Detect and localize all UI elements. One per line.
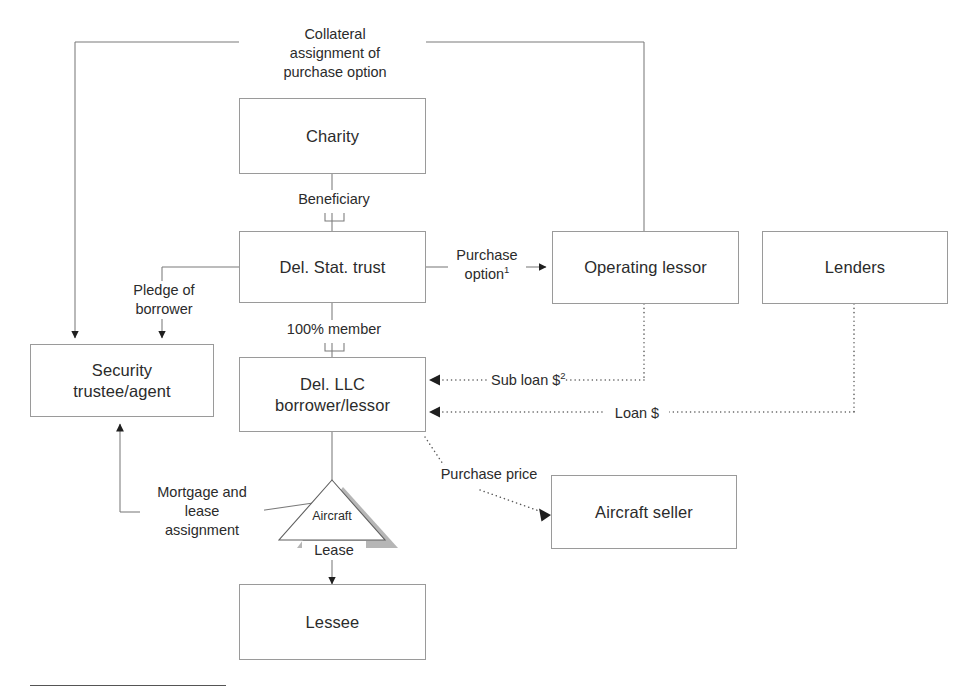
label-purchase-option-line2-text: option	[465, 266, 505, 282]
label-pledge-line2: borrower	[107, 300, 221, 319]
label-purchase-price-text: Purchase price	[441, 466, 538, 482]
label-collateral-line2: assignment of	[249, 44, 421, 63]
footnote-marker-1: 1	[504, 264, 509, 275]
label-collateral-line3: purchase option	[249, 63, 421, 82]
node-security-trustee-line2: trustee/agent	[73, 381, 171, 402]
aircraft-triangle-label-text: Aircraft	[312, 509, 352, 523]
node-aircraft-seller-label: Aircraft seller	[595, 502, 693, 523]
node-aircraft-seller[interactable]: Aircraft seller	[551, 475, 737, 549]
node-charity-label: Charity	[306, 126, 359, 147]
node-del-llc-line2: borrower/lessor	[275, 395, 390, 416]
node-operating-lessor-label: Operating lessor	[584, 257, 707, 278]
sub-loan-arrowhead	[429, 375, 440, 386]
node-operating-lessor[interactable]: Operating lessor	[552, 231, 739, 304]
label-beneficiary: Beneficiary	[277, 190, 391, 209]
loan-arrowhead	[429, 407, 440, 418]
label-purchase-option: Purchase option1	[448, 246, 526, 284]
aircraft-triangle-label: Aircraft	[302, 509, 362, 523]
node-security-trustee-agent[interactable]: Security trustee/agent	[30, 344, 214, 417]
label-sub-loan: Sub loan $2	[489, 371, 563, 390]
flowchart-diagram: Charity Del. Stat. trust Operating lesso…	[0, 0, 976, 699]
dotted-edge-arrowheads	[429, 375, 551, 522]
node-del-stat-trust-label: Del. Stat. trust	[279, 257, 385, 278]
label-mortgage-line1: Mortgage and	[142, 483, 262, 502]
label-purchase-option-line2: option1	[450, 265, 524, 284]
label-lease-text: Lease	[314, 542, 354, 558]
label-lease: Lease	[302, 541, 366, 560]
label-pledge-line1: Pledge of	[107, 281, 221, 300]
footnote-marker-2: 2	[560, 370, 565, 381]
node-del-stat-trust[interactable]: Del. Stat. trust	[239, 231, 426, 303]
label-pledge-of-borrower: Pledge of borrower	[105, 281, 223, 319]
node-lessee[interactable]: Lessee	[239, 584, 426, 660]
label-mortgage-line3: assignment	[142, 521, 262, 540]
node-lenders-label: Lenders	[825, 257, 885, 278]
label-loan: Loan $	[605, 404, 669, 423]
node-security-trustee-line1: Security	[92, 360, 152, 381]
label-100-percent-member: 100% member	[268, 320, 400, 339]
edge-purchase-price-lower	[480, 490, 542, 512]
label-collateral-line1: Collateral	[249, 25, 421, 44]
node-lessee-label: Lessee	[306, 612, 360, 633]
node-lenders[interactable]: Lenders	[762, 231, 948, 304]
label-loan-text: Loan $	[615, 405, 659, 421]
node-del-llc-line1: Del. LLC	[300, 374, 365, 395]
footnote-separator-rule	[30, 685, 226, 686]
purchase-price-arrowhead	[539, 509, 551, 522]
label-beneficiary-text: Beneficiary	[298, 191, 370, 207]
node-charity[interactable]: Charity	[239, 98, 426, 174]
label-collateral-assignment: Collateral assignment of purchase option	[247, 25, 423, 82]
node-del-llc-borrower-lessor[interactable]: Del. LLC borrower/lessor	[239, 357, 426, 432]
label-100-percent-member-text: 100% member	[287, 321, 381, 337]
beneficiary-connector-box	[325, 213, 344, 221]
label-purchase-option-line1: Purchase	[450, 246, 524, 265]
member-connector-box	[325, 343, 344, 351]
label-mortgage-lease-assignment: Mortgage and lease assignment	[140, 483, 264, 540]
label-purchase-price: Purchase price	[432, 465, 546, 484]
label-sub-loan-text: Sub loan $	[491, 372, 560, 388]
label-mortgage-line2: lease	[142, 502, 262, 521]
